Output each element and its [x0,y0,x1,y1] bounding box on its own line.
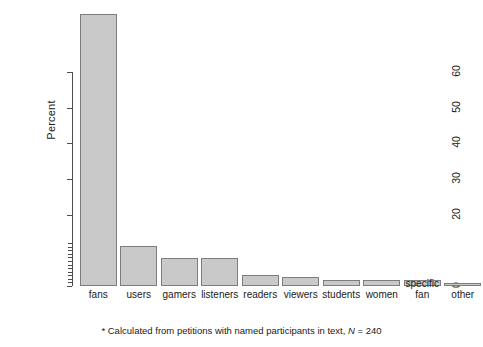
footnote-text: Calculated from petitions with named par… [105,325,348,336]
bar-series [72,8,477,286]
x-axis-category-labels: fansusersgamerslistenersreadersviewersst… [72,289,477,319]
bar [80,14,117,286]
x-axis-category-label: readers [240,289,281,300]
bar [201,258,238,286]
y-tick-major [67,286,72,287]
footnote-n-value: = 240 [355,325,382,336]
plot-area: 02030405060 [72,8,477,286]
footnote-n-label: N [348,325,355,336]
chart-footnote: * Calculated from petitions with named p… [0,325,483,336]
x-axis-category-label: users [119,289,160,300]
bar-chart-figure: Percent 02030405060 fansusersgamersliste… [0,0,483,347]
x-axis-category-label: gamers [159,289,200,300]
x-axis-category-label: fans [78,289,119,300]
x-axis-category-label: women [362,289,403,300]
bar [282,277,319,286]
x-axis-category-label: listeners [200,289,241,300]
y-axis-title: Percent [45,75,65,165]
x-axis-category-label: specific fan [402,278,443,300]
x-axis-category-label: students [321,289,362,300]
x-axis-category-label: viewers [281,289,322,300]
bar [120,246,157,286]
x-axis-category-label: other [443,289,483,300]
bar [242,275,279,286]
bar [363,280,400,286]
bar [323,280,360,286]
bar [444,283,481,286]
bar [161,258,198,286]
